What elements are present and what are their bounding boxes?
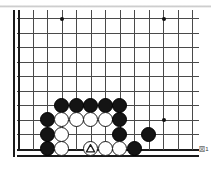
black-stone[interactable] xyxy=(54,98,69,113)
white-stone[interactable] xyxy=(54,112,69,127)
white-stone[interactable] xyxy=(98,141,113,156)
black-stone[interactable] xyxy=(40,127,55,142)
black-stone[interactable] xyxy=(112,112,127,127)
go-board[interactable] xyxy=(8,14,194,174)
black-stone[interactable] xyxy=(112,98,127,113)
black-stone[interactable] xyxy=(98,98,113,113)
black-stone[interactable] xyxy=(69,98,84,113)
black-stone[interactable] xyxy=(127,141,142,156)
white-stone[interactable] xyxy=(54,127,69,142)
black-stone[interactable] xyxy=(40,112,55,127)
black-stone[interactable] xyxy=(40,141,55,156)
white-stone[interactable] xyxy=(54,141,69,156)
black-stone[interactable] xyxy=(83,98,98,113)
board-stone-layer[interactable] xyxy=(8,14,194,174)
white-stone[interactable] xyxy=(83,112,98,127)
white-stone[interactable] xyxy=(69,112,84,127)
page-top-rule xyxy=(0,5,211,8)
white-stone[interactable] xyxy=(83,141,98,156)
black-stone[interactable] xyxy=(141,127,156,142)
figure-page: 図1 xyxy=(0,0,211,188)
figure-caption: 図1 xyxy=(198,146,210,153)
black-stone[interactable] xyxy=(112,127,127,142)
white-stone[interactable] xyxy=(98,112,113,127)
white-stone[interactable] xyxy=(112,141,127,156)
